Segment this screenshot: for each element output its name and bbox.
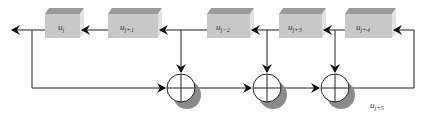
shift-connections (12, 30, 414, 88)
xor-node-1 (167, 74, 201, 109)
box-top-face (108, 8, 162, 14)
register-u-j-plus-2: uj−2 (207, 8, 254, 38)
register-u-j-plus-1: uj+1 (108, 8, 162, 38)
xor-node-3 (321, 74, 355, 109)
box-top-face (45, 8, 84, 14)
register-u-j: uj (45, 8, 84, 38)
bottom-connections (32, 30, 414, 88)
box-top-face (345, 8, 396, 14)
shift-register-diagram: uj uj+1 uj−2 uj+3 uj+4 (0, 0, 432, 116)
box-top-face (207, 8, 254, 14)
u-j-feed-arrow (32, 30, 165, 88)
xor-node-2 (253, 74, 287, 109)
feedback-arrow (394, 30, 414, 88)
output-label: uj+5 (370, 100, 385, 111)
register-u-j-plus-3: uj+3 (279, 8, 326, 38)
box-top-face (279, 8, 326, 14)
register-u-j-plus-4: uj+4 (345, 8, 396, 38)
